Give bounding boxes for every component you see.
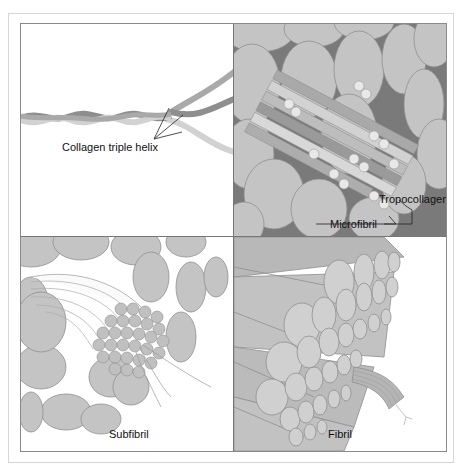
label-subfibril: Subfibril	[109, 429, 149, 440]
panel-triple-helix: Collagen triple helix	[21, 24, 234, 237]
panel-microfibril: Tropocollagen Microfibril	[234, 24, 446, 237]
panel-subfibril: Subfibril	[21, 237, 234, 451]
label-microfibril: Microfibril	[330, 219, 377, 230]
microfibril-illustration	[234, 24, 446, 237]
triple-helix-illustration	[21, 24, 234, 237]
fibril-illustration	[234, 237, 446, 451]
collagen-hierarchy-figure: Collagen triple helix	[20, 23, 447, 452]
label-collagen-triple-helix: Collagen triple helix	[62, 142, 158, 153]
subfibril-illustration	[21, 237, 234, 451]
label-tropocollagen: Tropocollagen	[379, 194, 446, 205]
label-fibril: Fibril	[328, 429, 352, 440]
panel-fibril: Fibril	[234, 237, 446, 451]
